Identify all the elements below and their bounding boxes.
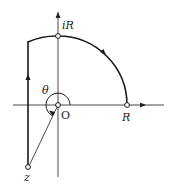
point-z <box>26 165 31 170</box>
label-theta: θ <box>42 84 49 97</box>
imaginary-axis-arrow-icon <box>56 12 61 18</box>
label-R: R <box>121 111 130 124</box>
label-z: z <box>23 171 30 184</box>
point-iR <box>56 34 61 39</box>
angle-arrow-icon <box>49 111 55 117</box>
label-iR: iR <box>62 19 74 32</box>
point-origin <box>56 103 61 108</box>
point-R <box>125 103 130 108</box>
label-origin: O <box>61 109 70 122</box>
real-axis-arrow-icon <box>140 103 146 108</box>
contour-diagram: iR R O θ z <box>0 0 172 187</box>
left-segment-arrow-icon <box>26 74 31 80</box>
